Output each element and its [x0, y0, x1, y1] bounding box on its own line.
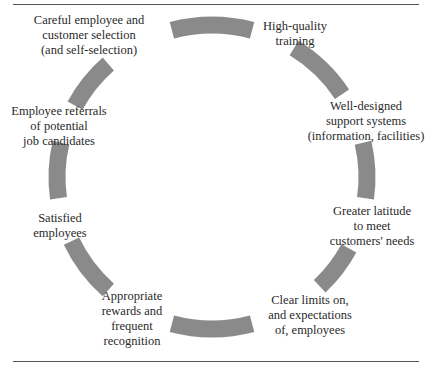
- arc-bottom: [172, 324, 252, 329]
- arc-lower-right: [320, 248, 349, 286]
- arc-upper-left: [75, 64, 108, 106]
- node-support: Well-designed support systems (informati…: [300, 99, 432, 144]
- arc-left: [57, 143, 61, 198]
- arc-top: [172, 25, 252, 30]
- node-training: High-quality training: [250, 19, 340, 49]
- node-satisfied: Satisfied employees: [20, 211, 100, 241]
- node-referrals: Employee referrals of potential job cand…: [0, 104, 118, 149]
- arc-lower-left: [72, 241, 109, 290]
- node-rewards: Appropriate rewards and frequent recogni…: [92, 289, 172, 349]
- node-latitude: Greater latitude to meet customers' need…: [312, 204, 432, 249]
- node-limits: Clear limits on, and expectations of, em…: [255, 293, 365, 338]
- node-selection: Careful employee and customer selection …: [2, 13, 176, 58]
- arc-right: [363, 143, 367, 198]
- arc-upper-right: [294, 48, 342, 94]
